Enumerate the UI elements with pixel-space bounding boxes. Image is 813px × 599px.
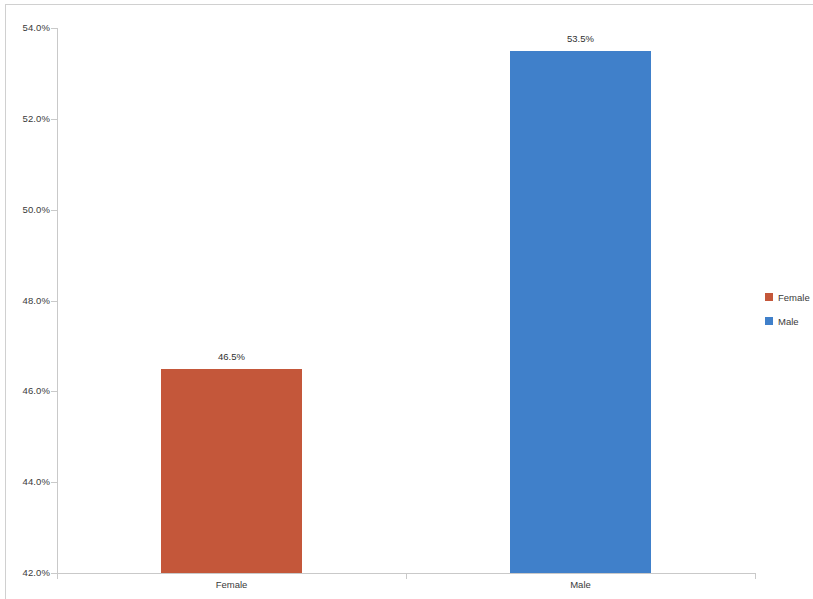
- x-axis-tick-mark: [755, 573, 756, 579]
- y-axis-tick-mark: [51, 301, 57, 302]
- y-axis-tick-label: 54.0%: [2, 22, 50, 33]
- y-axis-tick-label: 42.0%: [2, 567, 50, 578]
- y-axis-line: [57, 28, 58, 574]
- y-axis-tick-mark: [51, 482, 57, 483]
- y-axis-tick-label: 46.0%: [2, 385, 50, 396]
- bar-female[interactable]: [161, 369, 302, 573]
- legend-swatch-icon: [765, 293, 773, 301]
- y-axis-tick-label: 44.0%: [2, 476, 50, 487]
- y-axis-tick-mark: [51, 391, 57, 392]
- x-axis-tick-mark: [57, 573, 58, 579]
- chart-frame-top-border: [5, 4, 813, 5]
- y-axis-tick-label: 52.0%: [2, 113, 50, 124]
- y-axis-tick-label: 48.0%: [2, 295, 50, 306]
- y-axis-tick-mark: [51, 210, 57, 211]
- bar-value-label-male: 53.5%: [567, 33, 594, 44]
- x-axis-category-label: Male: [570, 579, 591, 590]
- x-axis-category-label: Female: [216, 579, 248, 590]
- chart-legend: FemaleMale: [765, 285, 810, 333]
- bar-male[interactable]: [510, 51, 651, 573]
- legend-item-male[interactable]: Male: [765, 309, 810, 333]
- x-axis-tick-mark: [406, 573, 407, 579]
- y-axis-tick-mark: [51, 28, 57, 29]
- bar-value-label-female: 46.5%: [218, 351, 245, 362]
- legend-label: Male: [778, 316, 799, 327]
- y-axis-tick-mark: [51, 119, 57, 120]
- y-axis-tick-label: 50.0%: [2, 204, 50, 215]
- legend-swatch-icon: [765, 317, 773, 325]
- legend-label: Female: [778, 292, 810, 303]
- legend-item-female[interactable]: Female: [765, 285, 810, 309]
- bar-chart: 42.0%44.0%46.0%48.0%50.0%52.0%54.0% Fema…: [0, 0, 813, 599]
